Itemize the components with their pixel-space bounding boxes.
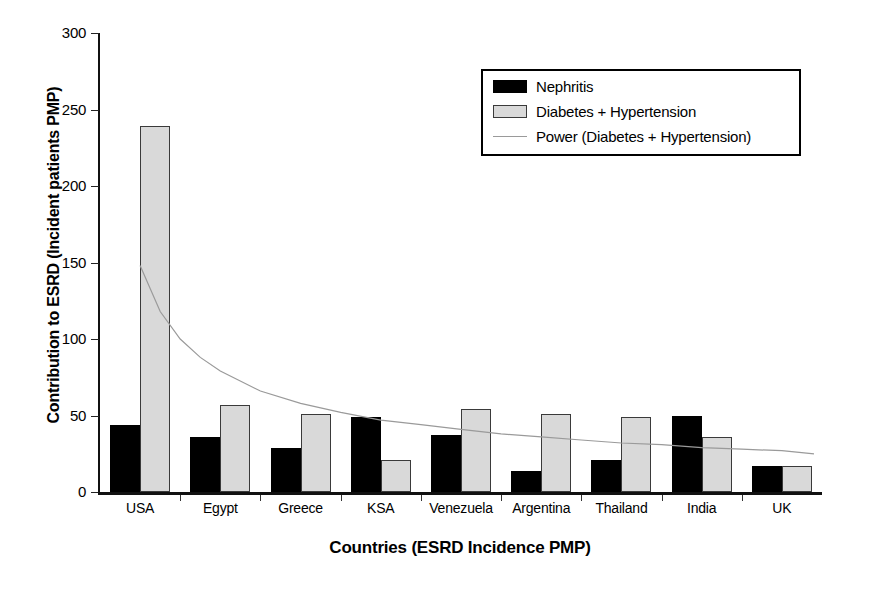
y-axis-tick-label: 100 bbox=[40, 331, 86, 346]
bar-diabetes-hypertension bbox=[301, 414, 331, 492]
bar-nephritis bbox=[271, 448, 301, 492]
bar-group bbox=[110, 33, 170, 492]
y-axis-tick-label-wrap: 250 bbox=[36, 102, 86, 117]
y-axis-tick-label: 250 bbox=[40, 102, 86, 117]
y-axis-tick bbox=[91, 339, 99, 340]
chart-legend: NephritisDiabetes + HypertensionPower (D… bbox=[481, 69, 801, 156]
bar-nephritis bbox=[431, 435, 461, 492]
legend-label: Diabetes + Hypertension bbox=[536, 103, 696, 120]
y-axis-tick-label: 200 bbox=[40, 178, 86, 193]
bar-diabetes-hypertension bbox=[702, 437, 732, 492]
y-axis-tick-label: 0 bbox=[40, 484, 86, 499]
bar-diabetes-hypertension bbox=[782, 466, 812, 492]
bar-group bbox=[351, 33, 411, 492]
x-axis-title: Countries (ESRD Incidence PMP) bbox=[98, 538, 822, 558]
legend-swatch-line-icon bbox=[493, 130, 527, 143]
y-axis-tick bbox=[91, 186, 99, 187]
legend-swatch-solid-black-icon bbox=[493, 80, 527, 93]
bar-diabetes-hypertension bbox=[140, 126, 170, 492]
bar-diabetes-hypertension bbox=[220, 405, 250, 492]
y-axis-tick-label-wrap: 50 bbox=[36, 408, 86, 423]
legend-swatch-solid-gray-icon bbox=[493, 105, 527, 118]
bar-nephritis bbox=[591, 460, 621, 492]
bar-nephritis bbox=[190, 437, 220, 492]
y-axis-tick-label: 300 bbox=[40, 25, 86, 40]
y-axis-tick-label: 50 bbox=[40, 408, 86, 423]
bar-nephritis bbox=[351, 417, 381, 492]
y-axis-tick bbox=[91, 110, 99, 111]
legend-item: Diabetes + Hypertension bbox=[493, 101, 696, 121]
bar-diabetes-hypertension bbox=[621, 417, 651, 492]
bar-diabetes-hypertension bbox=[461, 409, 491, 492]
legend-label: Nephritis bbox=[536, 78, 593, 95]
bar-group bbox=[190, 33, 250, 492]
y-axis-tick-label-wrap: 200 bbox=[36, 178, 86, 193]
x-axis-line bbox=[98, 492, 822, 495]
legend-item: Nephritis bbox=[493, 76, 593, 96]
bar-nephritis bbox=[110, 425, 140, 492]
y-axis-tick-label-wrap: 100 bbox=[36, 331, 86, 346]
y-axis-tick bbox=[91, 33, 99, 34]
y-axis-tick-label-wrap: 300 bbox=[36, 25, 86, 40]
bar-nephritis bbox=[752, 466, 782, 492]
y-axis-tick bbox=[91, 263, 99, 264]
bar-group bbox=[271, 33, 331, 492]
bar-nephritis bbox=[672, 416, 702, 493]
bar-nephritis bbox=[511, 471, 541, 492]
chart-figure: Contribution to ESRD (Incident patients … bbox=[0, 0, 881, 589]
x-axis-category-label: UK bbox=[722, 500, 842, 516]
legend-label: Power (Diabetes + Hypertension) bbox=[536, 128, 751, 145]
legend-item: Power (Diabetes + Hypertension) bbox=[493, 126, 751, 146]
y-axis-tick-label-wrap: 150 bbox=[36, 255, 86, 270]
y-axis-tick-label-wrap: 0 bbox=[36, 484, 86, 499]
y-axis-tick-label: 150 bbox=[40, 255, 86, 270]
y-axis-tick bbox=[91, 416, 99, 417]
bar-diabetes-hypertension bbox=[541, 414, 571, 492]
bar-diabetes-hypertension bbox=[381, 460, 411, 492]
